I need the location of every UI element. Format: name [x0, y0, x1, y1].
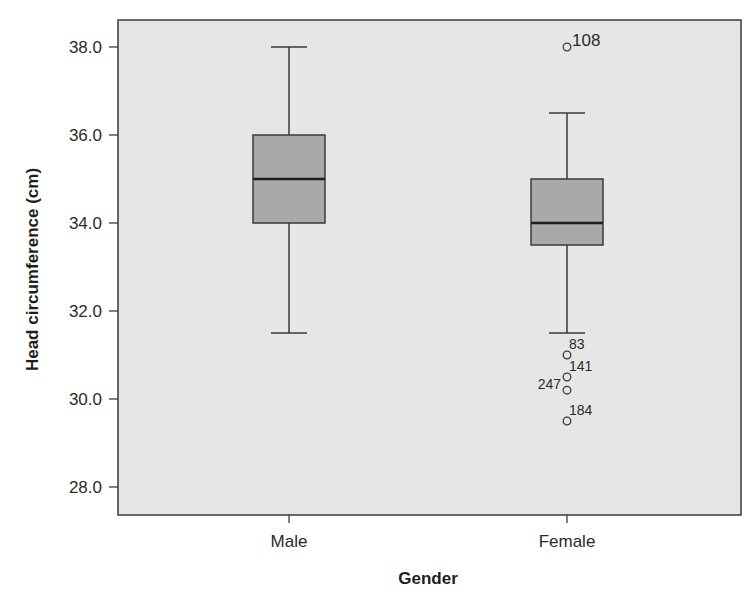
outlier-label: 184: [569, 402, 593, 418]
boxplot-chart: 28.030.032.034.036.038.0 MaleFemale 1088…: [0, 0, 756, 610]
y-axis-title: Head circumference (cm): [23, 168, 42, 371]
y-axis: 28.030.032.034.036.038.0: [69, 38, 118, 497]
outlier-label: 108: [572, 31, 600, 50]
y-tick-label: 36.0: [69, 126, 102, 145]
x-tick-label: Male: [271, 532, 308, 551]
outlier-label: 141: [569, 358, 593, 374]
plot-area: [118, 20, 741, 515]
x-axis: MaleFemale: [271, 515, 596, 551]
y-tick-label: 34.0: [69, 214, 102, 233]
iqr-box: [531, 179, 603, 245]
y-tick-label: 32.0: [69, 302, 102, 321]
outlier-label: 83: [569, 336, 585, 352]
y-tick-label: 30.0: [69, 390, 102, 409]
outlier-label: 247: [538, 376, 562, 392]
x-tick-label: Female: [539, 532, 596, 551]
y-tick-label: 38.0: [69, 38, 102, 57]
x-axis-title: Gender: [398, 569, 458, 588]
y-tick-label: 28.0: [69, 478, 102, 497]
